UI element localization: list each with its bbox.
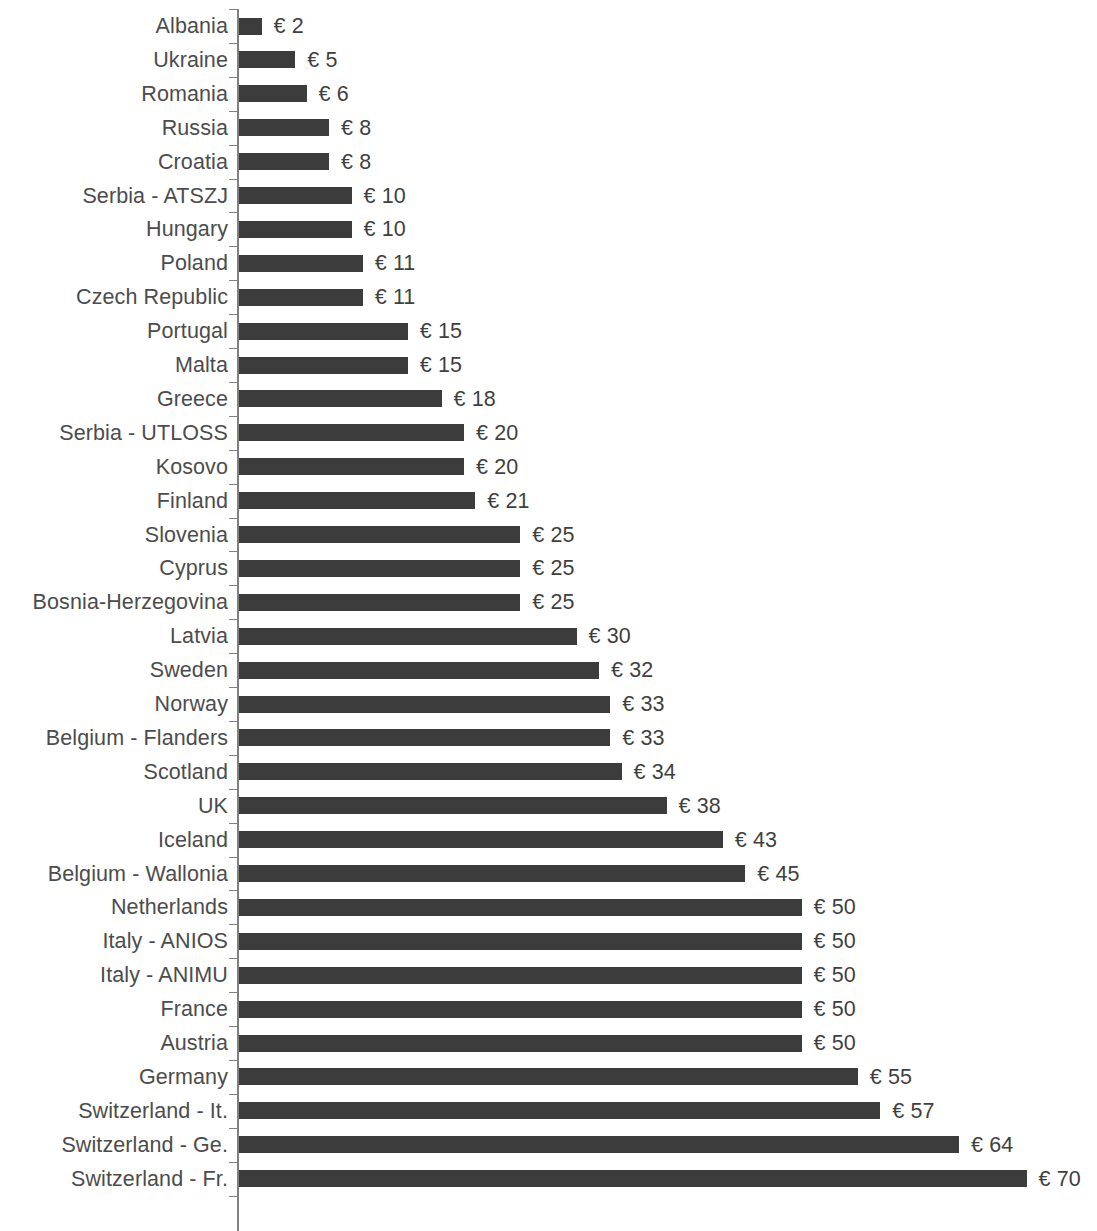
bar-row: Germany€ 55 <box>0 1060 1097 1094</box>
bar-track: € 64 <box>239 1128 1097 1162</box>
bar-category-label: Russia <box>162 111 228 145</box>
axis-tick <box>229 1162 237 1163</box>
bar-value-label: € 8 <box>341 111 371 145</box>
bar-category-label: Serbia - UTLOSS <box>59 416 228 450</box>
bar-row: Latvia€ 30 <box>0 619 1097 653</box>
bar-fill <box>239 221 352 238</box>
bar-track: € 15 <box>239 348 1097 382</box>
bar-fill <box>239 526 520 543</box>
bar-track: € 8 <box>239 111 1097 145</box>
bar-category-label: Finland <box>157 484 228 518</box>
bar-row: Netherlands€ 50 <box>0 890 1097 924</box>
bar-value-label: € 20 <box>476 450 518 484</box>
axis-tick <box>229 1094 237 1095</box>
bar-row: Finland€ 21 <box>0 484 1097 518</box>
plot-area: Albania€ 2Ukraine€ 5Romania€ 6Russia€ 8C… <box>0 0 1097 1231</box>
bar-category-label: Italy - ANIOS <box>102 924 228 958</box>
bar-category-label: Malta <box>175 348 228 382</box>
bar-track: € 50 <box>239 924 1097 958</box>
bar-category-label: Albania <box>156 9 228 43</box>
bar-row: Sweden€ 32 <box>0 653 1097 687</box>
bar-category-label: Belgium - Wallonia <box>48 857 228 891</box>
axis-tick <box>229 246 237 247</box>
bar-row: Belgium - Flanders€ 33 <box>0 721 1097 755</box>
bar-fill <box>239 1136 959 1153</box>
bar-value-label: € 25 <box>532 551 574 585</box>
bar-category-label: Kosovo <box>156 450 228 484</box>
bar-track: € 30 <box>239 619 1097 653</box>
bar-fill <box>239 763 622 780</box>
axis-tick <box>229 280 237 281</box>
bar-row: Bosnia-Herzegovina€ 25 <box>0 585 1097 619</box>
bar-row: Belgium - Wallonia€ 45 <box>0 857 1097 891</box>
bar-category-label: Romania <box>141 77 228 111</box>
bar-category-label: Ukraine <box>153 43 228 77</box>
bar-track: € 50 <box>239 890 1097 924</box>
bar-track: € 50 <box>239 992 1097 1026</box>
bar-fill <box>239 18 262 35</box>
bar-track: € 55 <box>239 1060 1097 1094</box>
bar-fill <box>239 51 295 68</box>
bar-category-label: Slovenia <box>145 518 228 552</box>
bar-value-label: € 25 <box>532 585 574 619</box>
bar-fill <box>239 628 577 645</box>
axis-tick <box>229 755 237 756</box>
bar-value-label: € 70 <box>1039 1162 1081 1196</box>
bar-row: Scotland€ 34 <box>0 755 1097 789</box>
bar-row: Italy - ANIMU€ 50 <box>0 958 1097 992</box>
bar-fill <box>239 594 520 611</box>
bar-fill <box>239 1035 802 1052</box>
bar-value-label: € 57 <box>892 1094 934 1128</box>
bar-row: Switzerland - Fr.€ 70 <box>0 1162 1097 1196</box>
bar-value-label: € 15 <box>420 348 462 382</box>
bar-value-label: € 45 <box>757 857 799 891</box>
bar-category-label: Portugal <box>147 314 228 348</box>
bar-row: Albania€ 2 <box>0 9 1097 43</box>
bar-track: € 34 <box>239 755 1097 789</box>
bar-category-label: Hungary <box>146 212 228 246</box>
bar-category-label: Norway <box>155 687 228 721</box>
bar-row: Hungary€ 10 <box>0 212 1097 246</box>
axis-tick <box>229 1026 237 1027</box>
axis-tick <box>229 958 237 959</box>
axis-tick <box>229 924 237 925</box>
bar-track: € 57 <box>239 1094 1097 1128</box>
bar-value-label: € 34 <box>634 755 676 789</box>
bar-row: Italy - ANIOS€ 50 <box>0 924 1097 958</box>
bar-track: € 33 <box>239 687 1097 721</box>
bar-value-label: € 5 <box>307 43 337 77</box>
bar-fill <box>239 1001 802 1018</box>
bar-value-label: € 30 <box>589 619 631 653</box>
bar-row: France€ 50 <box>0 992 1097 1026</box>
bar-fill <box>239 797 667 814</box>
bar-category-label: UK <box>198 789 228 823</box>
axis-tick <box>229 77 237 78</box>
bar-row: Norway€ 33 <box>0 687 1097 721</box>
axis-tick <box>229 450 237 451</box>
bar-track: € 10 <box>239 212 1097 246</box>
bar-row: Kosovo€ 20 <box>0 450 1097 484</box>
bar-fill <box>239 424 464 441</box>
bar-category-label: Switzerland - It. <box>78 1094 228 1128</box>
bar-category-label: Belgium - Flanders <box>46 721 228 755</box>
axis-tick <box>229 619 237 620</box>
bar-track: € 45 <box>239 857 1097 891</box>
bar-fill <box>239 729 610 746</box>
bar-category-label: Iceland <box>158 823 228 857</box>
bar-fill <box>239 662 599 679</box>
bar-track: € 15 <box>239 314 1097 348</box>
bar-fill <box>239 933 802 950</box>
bar-category-label: Croatia <box>158 145 228 179</box>
bar-value-label: € 6 <box>319 77 349 111</box>
axis-tick <box>229 9 237 10</box>
bar-fill <box>239 289 363 306</box>
bar-track: € 50 <box>239 958 1097 992</box>
axis-tick <box>229 518 237 519</box>
bar-fill <box>239 696 610 713</box>
bar-track: € 10 <box>239 179 1097 213</box>
bar-value-label: € 21 <box>487 484 529 518</box>
axis-tick <box>229 179 237 180</box>
bar-fill <box>239 153 329 170</box>
bar-value-label: € 50 <box>814 890 856 924</box>
bar-track: € 11 <box>239 246 1097 280</box>
